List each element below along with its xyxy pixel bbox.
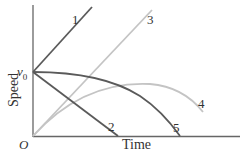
- curve-1: [33, 7, 92, 72]
- curve-1-label: 1: [72, 13, 79, 26]
- v0-subscript: 0: [23, 72, 28, 82]
- origin-label: O: [19, 138, 28, 151]
- curve-2-label: 2: [108, 120, 115, 133]
- chart-plot: [0, 0, 241, 151]
- curve-4-label: 4: [198, 97, 205, 110]
- curve-5-label: 5: [173, 121, 180, 134]
- y-axis-label: Speed: [6, 70, 22, 110]
- x-axis-label: Time: [122, 138, 151, 151]
- curve-3-label: 3: [147, 13, 154, 26]
